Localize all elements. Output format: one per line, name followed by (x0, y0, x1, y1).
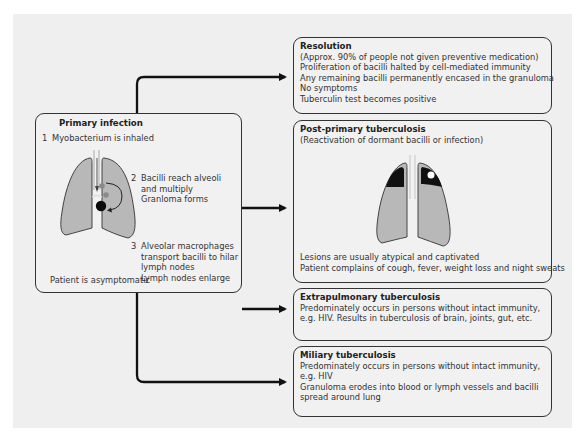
miliary-title: Miliary tuberculosis (300, 350, 545, 361)
bacilli-dot (103, 192, 109, 198)
cavity (428, 172, 435, 179)
post-primary-box: Post-primary tuberculosis (Reactivation … (293, 120, 552, 283)
left-lung (61, 158, 92, 235)
post-primary-details: Lesions are usually atypical and captiva… (300, 252, 565, 273)
arrow-to-resolution (137, 77, 285, 113)
extrapulmonary-box: Extrapulmonary tuberculosis Predominatel… (293, 288, 552, 341)
resolution-line: No symptoms (300, 83, 545, 94)
bacilli-dot (99, 183, 105, 189)
primary-infection-box: Primary infection 1Myobacterium is inhal… (35, 113, 242, 293)
miliary-box: Miliary tuberculosis Predominately occur… (293, 346, 552, 417)
post-primary-line: Lesions are usually atypical and captiva… (300, 252, 565, 263)
resolution-line: Tuberculin test becomes positive (300, 94, 545, 105)
miliary-line: e.g. HIV (300, 371, 545, 382)
resolution-title: Resolution (300, 41, 545, 52)
granuloma-node (96, 201, 106, 211)
extrapulmonary-line: e.g. HIV. Results in tuberculosis of bra… (300, 313, 545, 324)
primary-footer: Patient is asymptomatic (50, 275, 150, 286)
post-primary-line: Patient complains of cough, fever, weigh… (300, 263, 565, 274)
extrapulmonary-title: Extrapulmonary tuberculosis (300, 292, 545, 303)
resolution-line: (Approx. 90% of people not given prevent… (300, 52, 545, 63)
miliary-line: Granuloma erodes into blood or lymph ves… (300, 382, 545, 393)
resolution-line: Proliferation of bacilli halted by cell-… (300, 62, 545, 73)
extrapulmonary-line: Predominately occurs in persons without … (300, 303, 545, 314)
miliary-line: spread around lung (300, 392, 545, 403)
miliary-line: Predominately occurs in persons without … (300, 361, 545, 372)
resolution-line: Any remaining bacilli permanently encase… (300, 73, 545, 84)
primary-step-2: 2Bacilli reach alveoli and multiply Gran… (131, 173, 221, 205)
arrow-to-miliary (137, 293, 285, 382)
resolution-box: Resolution (Approx. 90% of people not gi… (293, 37, 552, 114)
